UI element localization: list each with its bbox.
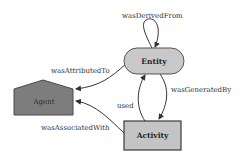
provenance-diagram: wasDerivedFrom wasAttributedTo wasAssoci… [0, 0, 244, 158]
node-label-agent: Agent [33, 98, 55, 106]
edge-label-was-derived-from: wasDerivedFrom [122, 12, 183, 20]
edge-was-attributed-to: wasAttributedTo [51, 64, 126, 89]
node-activity: Activity [124, 121, 181, 150]
node-label-activity: Activity [136, 131, 169, 140]
edge-was-derived-from: wasDerivedFrom [122, 12, 183, 48]
edge-was-generated-by: wasGeneratedBy [159, 74, 231, 119]
edge-label-was-generated-by: wasGeneratedBy [171, 86, 231, 94]
node-label-entity: Entity [141, 57, 167, 66]
edge-label-was-associated-with: wasAssociatedWith [41, 124, 110, 132]
edge-label-was-attributed-to: wasAttributedTo [51, 67, 110, 75]
node-agent: Agent [14, 80, 73, 115]
edge-used: used [117, 75, 145, 121]
edge-label-used: used [117, 102, 134, 110]
node-entity: Entity [124, 48, 184, 74]
